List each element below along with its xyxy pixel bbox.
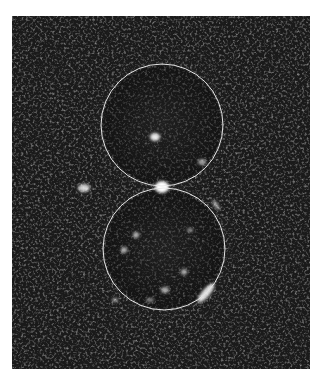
lower-spot-3 [181, 269, 187, 275]
lower-spot-5 [146, 298, 154, 302]
lower-spot-6 [187, 228, 193, 232]
upper-right-spot [198, 159, 206, 165]
lower-spot-1 [133, 232, 139, 238]
micrograph-figure [0, 0, 322, 379]
lower-spot-4 [161, 287, 169, 293]
upper-inner-spot [150, 133, 160, 141]
left-edge-spot [112, 298, 118, 302]
micrograph-canvas [0, 0, 322, 379]
left-spot [78, 184, 90, 192]
lower-spot-2 [121, 247, 127, 253]
junction-spot [155, 181, 169, 193]
